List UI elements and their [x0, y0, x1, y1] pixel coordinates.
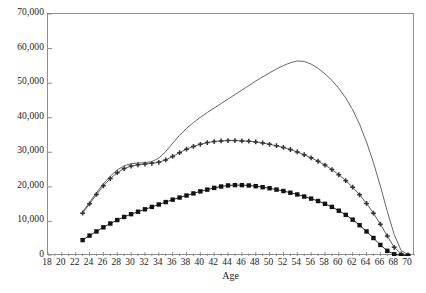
x-tick-label: 40	[195, 257, 205, 268]
data-point-marker	[198, 142, 203, 147]
data-point-marker	[177, 195, 181, 199]
data-point-marker	[274, 187, 278, 191]
x-axis-title: Age	[47, 270, 414, 281]
data-point-marker	[170, 197, 174, 201]
data-point-marker	[253, 140, 258, 145]
data-point-marker	[267, 142, 272, 147]
data-point-marker	[385, 249, 389, 253]
data-point-marker	[309, 196, 313, 200]
x-tick-label: 24	[84, 257, 94, 268]
data-point-marker	[164, 200, 168, 204]
x-tick-label: 44	[222, 257, 232, 268]
x-tick-label: 58	[319, 257, 329, 268]
data-point-marker	[184, 193, 188, 197]
data-point-marker	[392, 252, 396, 256]
data-point-marker	[212, 139, 217, 144]
axis-ticks-layer	[48, 14, 415, 256]
data-series-layer	[80, 61, 410, 256]
data-point-marker	[177, 150, 182, 155]
x-tick-label: 26	[98, 257, 108, 268]
data-point-marker	[406, 253, 410, 256]
data-point-marker	[316, 199, 320, 203]
data-point-marker	[323, 202, 327, 206]
y-tick-label: 40,000	[0, 112, 44, 122]
y-tick-label: 10,000	[0, 215, 44, 225]
data-point-marker	[163, 157, 168, 162]
data-point-marker	[281, 189, 285, 193]
y-tick-label: 70,000	[0, 8, 44, 18]
data-point-marker	[157, 202, 161, 206]
data-point-marker	[219, 138, 224, 143]
data-point-marker	[302, 152, 307, 157]
data-point-marker	[129, 212, 133, 216]
data-point-marker	[357, 223, 361, 227]
data-point-marker	[191, 191, 195, 195]
data-point-marker	[205, 187, 209, 191]
data-point-marker	[323, 163, 328, 168]
data-point-marker	[267, 186, 271, 190]
x-tick-label: 28	[111, 257, 121, 268]
x-axis-tick-labels: 1820222426283032343638404244464850525456…	[47, 257, 414, 271]
y-tick-label: 20,000	[0, 181, 44, 191]
data-point-marker	[226, 183, 230, 187]
x-tick-label: 66	[375, 257, 385, 268]
series-series-middle	[80, 138, 410, 256]
data-point-marker	[219, 184, 223, 188]
data-point-marker	[288, 191, 292, 195]
plot-area	[47, 13, 414, 255]
x-tick-label: 64	[361, 257, 371, 268]
data-point-marker	[115, 218, 119, 222]
data-point-marker	[94, 229, 98, 233]
data-point-marker	[198, 189, 202, 193]
data-point-marker	[156, 160, 161, 165]
x-tick-label: 20	[56, 257, 66, 268]
data-point-marker	[288, 147, 293, 152]
data-point-marker	[191, 144, 196, 149]
y-tick-label: 30,000	[0, 146, 44, 156]
data-point-marker	[240, 183, 244, 187]
series-line	[83, 141, 408, 256]
data-point-marker	[371, 236, 375, 240]
data-point-marker	[378, 243, 382, 247]
data-point-marker	[378, 222, 383, 227]
y-tick-label: 60,000	[0, 43, 44, 53]
data-point-marker	[260, 185, 264, 189]
x-tick-label: 30	[125, 257, 135, 268]
data-point-marker	[205, 140, 210, 145]
data-point-marker	[150, 205, 154, 209]
cropped-caption-strip	[0, 286, 426, 293]
x-tick-label: 50	[264, 257, 274, 268]
series-series-lower	[80, 183, 410, 256]
data-point-marker	[281, 145, 286, 150]
x-tick-label: 18	[42, 257, 52, 268]
x-tick-label: 46	[236, 257, 246, 268]
x-tick-label: 68	[388, 257, 398, 268]
x-tick-label: 42	[208, 257, 218, 268]
data-point-marker	[246, 139, 251, 144]
y-tick-label: 0	[0, 250, 44, 260]
data-point-marker	[295, 150, 300, 155]
x-tick-label: 48	[250, 257, 260, 268]
data-point-marker	[295, 192, 299, 196]
x-tick-label: 62	[347, 257, 357, 268]
x-tick-label: 36	[167, 257, 177, 268]
data-point-marker	[260, 141, 265, 146]
x-tick-label: 60	[333, 257, 343, 268]
chart-figure: 010,00020,00030,00040,00050,00060,00070,…	[0, 0, 426, 293]
data-point-marker	[254, 184, 258, 188]
data-point-marker	[385, 234, 390, 239]
x-tick-label: 22	[70, 257, 80, 268]
x-tick-label: 52	[278, 257, 288, 268]
data-point-marker	[364, 229, 368, 233]
data-point-marker	[274, 143, 279, 148]
data-point-marker	[337, 209, 341, 213]
data-point-marker	[122, 215, 126, 219]
data-point-marker	[87, 233, 91, 237]
data-point-marker	[80, 238, 84, 242]
x-tick-label: 34	[153, 257, 163, 268]
data-point-marker	[316, 159, 321, 164]
data-point-marker	[184, 147, 189, 152]
data-point-marker	[399, 253, 403, 256]
data-point-marker	[309, 155, 314, 160]
data-point-marker	[330, 205, 334, 209]
